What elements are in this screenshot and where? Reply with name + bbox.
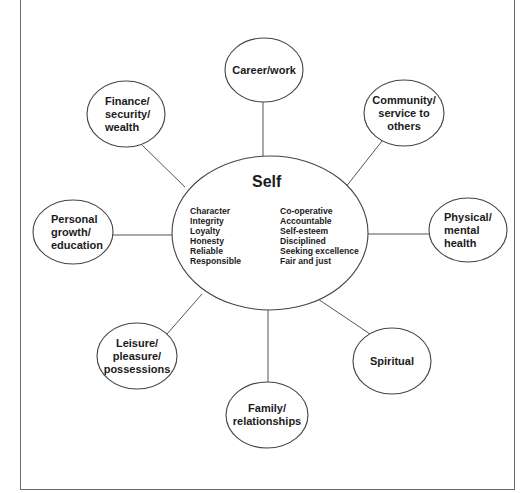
node-label: growth/ <box>51 226 91 239</box>
node-personal: Personal growth/ education <box>51 199 115 265</box>
node-label: Leisure/ <box>116 337 158 350</box>
node-community: Community/ service to others <box>364 80 444 146</box>
trait: Honesty <box>190 236 241 246</box>
trait: Reliable <box>190 246 241 256</box>
node-career: Career/work <box>225 38 303 102</box>
node-leisure: Leisure/ pleasure/ possessions <box>97 323 177 389</box>
node-label: education <box>51 239 103 252</box>
node-label: Spiritual <box>370 355 414 368</box>
trait: Disciplined <box>280 236 359 246</box>
trait: Character <box>190 206 241 216</box>
node-label: mental <box>444 224 479 237</box>
trait: Responsible <box>190 256 241 266</box>
traits-right-column: Co-operative Accountable Self-esteem Dis… <box>280 206 359 266</box>
node-label: Personal <box>51 213 97 226</box>
node-label: possessions <box>104 363 171 376</box>
node-label: relationships <box>233 415 301 428</box>
node-family: Family/ relationships <box>226 382 308 448</box>
self-title: Self <box>252 173 281 191</box>
node-label: Finance/ <box>105 95 150 108</box>
connector-finance <box>142 145 185 187</box>
node-label: wealth <box>105 121 139 134</box>
trait: Co-operative <box>280 206 359 216</box>
traits-left-column: Character Integrity Loyalty Honesty Reli… <box>190 206 241 266</box>
trait: Loyalty <box>190 226 241 236</box>
node-label: Physical/ <box>444 211 492 224</box>
trait: Self-esteem <box>280 226 359 236</box>
trait: Seeking excellence <box>280 246 359 256</box>
trait: Fair and just <box>280 256 359 266</box>
node-label: Community/ <box>372 94 436 107</box>
node-finance: Finance/ security/ wealth <box>105 81 165 147</box>
trait: Integrity <box>190 216 241 226</box>
node-label: security/ <box>105 108 150 121</box>
connector-community <box>345 141 382 188</box>
node-label: service to <box>378 107 429 120</box>
node-spiritual: Spiritual <box>353 328 431 394</box>
node-label: Family/ <box>248 402 286 415</box>
node-label: others <box>387 120 421 133</box>
node-physical: Physical/ mental health <box>444 197 500 263</box>
node-label: Career/work <box>232 64 296 77</box>
node-label: health <box>444 237 476 250</box>
trait: Accountable <box>280 216 359 226</box>
node-label: pleasure/ <box>113 350 161 363</box>
